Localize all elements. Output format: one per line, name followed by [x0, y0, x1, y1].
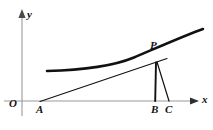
point-label-c: C [165, 104, 172, 115]
x-axis-arrowhead [190, 97, 199, 104]
y-axis-label: y [27, 9, 32, 20]
y-axis-arrowhead [18, 9, 25, 18]
point-label-p: P [150, 40, 157, 51]
exponential-curve [47, 29, 203, 71]
segment-PB [155, 63, 156, 102]
point-label-b: B [151, 104, 158, 115]
x-axis-label: x [202, 94, 208, 105]
figure-container: y x O A B C P [0, 0, 213, 130]
segment-PC [157, 62, 169, 101]
origin-label: O [9, 98, 17, 109]
point-label-a: A [36, 104, 43, 115]
